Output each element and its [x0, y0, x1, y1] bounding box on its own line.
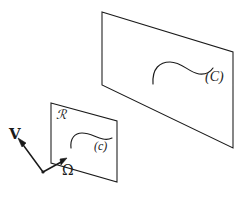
region-label-R: ℛ — [56, 108, 66, 121]
diagram-canvas — [0, 0, 250, 197]
vector-label-omega: Ω — [62, 163, 74, 177]
vector-origin-dot — [41, 170, 44, 173]
curve-label-c-small: (c) — [94, 140, 107, 152]
curve-label-C-large: (C) — [205, 70, 224, 84]
vector-v-shaft — [21, 142, 43, 172]
figure-container: ℛ (c) (C) V Ω — [0, 0, 250, 197]
vector-label-V: V — [9, 127, 21, 142]
